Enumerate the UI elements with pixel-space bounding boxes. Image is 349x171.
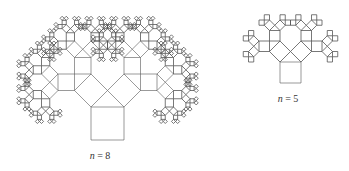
tree-square [42,51,46,55]
tree-square [58,74,75,91]
tree-square [97,16,101,20]
tree-square [52,119,56,123]
tree-square [37,107,45,115]
tree-square [169,35,173,39]
tree-square [291,20,296,25]
tree-square [184,107,188,111]
tree-square [169,39,173,43]
tree-square [120,51,124,55]
tree-square [182,51,186,55]
tree-square [91,51,95,55]
tree-square [327,57,332,62]
tree-square [163,41,167,45]
tree-square [54,22,58,26]
tree-square [25,95,33,103]
tree-square [157,27,161,31]
tree-square [17,60,21,64]
tree-square [42,39,46,43]
tree-square [66,41,83,58]
tree-square [264,15,269,20]
tree-square [182,109,186,113]
tree-square [163,119,167,123]
tree-square [17,76,21,80]
tree-square [151,16,155,20]
tree-square [58,25,62,29]
tree-square [48,41,52,45]
tree-square [62,20,66,24]
tree-square [178,49,182,53]
tree-square [17,88,21,92]
tree-square [70,25,78,33]
tree-square [39,41,43,45]
tree-square [75,20,79,24]
tree-square [161,115,165,119]
tree-square [17,64,21,68]
tree-square [17,101,21,105]
tree-square [161,33,165,37]
tree-square [291,41,312,62]
tree-square [194,88,198,92]
tree-square [159,58,163,62]
tree-square [182,62,190,70]
tree-square [62,25,70,33]
tree-square [280,15,285,20]
label-equals: = [283,93,294,104]
tree-square [157,66,174,83]
tree-square [186,103,190,107]
tree-square [54,27,58,31]
label-n5: n = 5 [278,93,299,104]
tree-square [87,20,91,24]
tree-square [157,82,174,99]
tree-square [159,41,163,45]
tree-square [184,53,188,57]
tree-square [188,107,192,111]
tree-square [312,15,317,20]
tree-square [33,91,41,99]
tree-square [75,58,92,75]
tree-square [157,22,161,26]
tree-square [171,41,175,45]
tree-square [21,62,25,66]
tree-square [52,41,56,45]
tree-square [58,113,62,117]
tree-square [50,33,54,37]
tree-square [159,29,163,33]
tree-square [312,41,323,52]
tree-square [42,82,59,99]
tree-square [249,31,254,36]
tree-square [285,20,290,25]
tree-square [29,109,33,113]
tree-square [35,41,39,45]
tree-square [126,16,130,20]
tree-square [46,37,50,41]
tree-square [174,91,182,99]
tree-square [25,70,33,78]
tree-square [186,58,190,62]
tree-square [25,62,33,70]
tree-square [153,51,157,55]
tree-square [190,62,194,66]
tree-square [249,36,260,47]
tree-square [182,95,190,103]
tree-square [42,47,46,51]
tree-square [91,107,124,140]
tree-square [165,99,173,107]
tree-square [52,58,56,62]
tree-square [296,20,307,31]
tree-square [120,47,124,51]
tree-square [29,51,33,55]
tree-square [33,111,37,115]
tree-square [120,25,128,33]
tree-square [17,84,21,88]
tree-square [23,53,27,57]
tree-square [112,33,116,37]
tree-square [182,47,186,51]
tree-square [114,16,118,20]
label-equals: = [95,150,106,161]
tree-square [194,64,198,68]
tree-square [122,16,126,20]
tree-square [29,47,33,51]
tree-square [169,107,177,115]
tree-square [322,46,333,57]
tree-square [91,35,95,39]
